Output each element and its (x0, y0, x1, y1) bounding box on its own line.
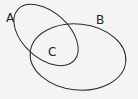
label-b: B (96, 14, 104, 26)
venn-shapes (0, 0, 138, 99)
set-a-ellipse (2, 0, 89, 78)
label-c: C (48, 46, 56, 58)
set-b-ellipse (27, 19, 129, 95)
venn-diagram: A B C (0, 0, 138, 99)
label-a: A (6, 12, 14, 24)
